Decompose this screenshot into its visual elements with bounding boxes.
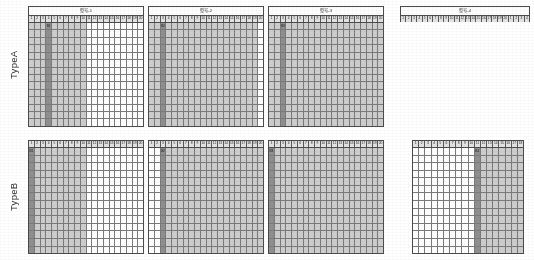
grid-row [149, 186, 263, 194]
grid-cell [138, 148, 143, 155]
grid-row [149, 201, 263, 209]
grid-row [29, 239, 143, 247]
grid-cell [518, 171, 523, 178]
matrix-panel-a4: 型号-412345678910111213141516171819201234 [400, 6, 530, 22]
grid-row [413, 224, 523, 232]
grid-cell [138, 224, 143, 231]
grid-row: B1 [29, 23, 143, 30]
panel-column-header-b4: 123456789101112131415161718 [412, 140, 524, 147]
grid-row: B2 [149, 23, 263, 30]
grid-row [149, 178, 263, 186]
grid-row [413, 216, 523, 224]
grid-row [149, 90, 263, 97]
column-header-cell: 20 [138, 16, 143, 22]
grid-cell [258, 53, 263, 59]
grid-row [149, 239, 263, 247]
grid-row [269, 178, 383, 186]
grid-row [269, 231, 383, 239]
grid-cell [258, 209, 263, 216]
grid-cell [138, 193, 143, 200]
grid-cell [378, 30, 383, 36]
grid-row [413, 231, 523, 239]
grid-row [413, 239, 523, 247]
grid-cell [518, 224, 523, 231]
grid-cell [518, 247, 523, 254]
matrix-panel-b2: 1234567891011121314151617181920B2 [148, 140, 264, 254]
grid-row [413, 201, 523, 209]
grid-row: B4 [413, 148, 523, 156]
grid-cell [138, 105, 143, 111]
highlight-column-label: B1 [29, 148, 34, 155]
grid-cell [138, 239, 143, 246]
grid-row [413, 193, 523, 201]
grid-cell [258, 119, 263, 125]
grid-row [149, 75, 263, 82]
grid-cell [258, 45, 263, 51]
grid-cell [378, 97, 383, 103]
grid-row [269, 171, 383, 179]
grid-cell [138, 209, 143, 216]
grid-row [29, 97, 143, 104]
grid-row [29, 231, 143, 239]
grid-row [269, 60, 383, 67]
grid-cell [258, 38, 263, 44]
grid-row [29, 112, 143, 119]
grid-cell [518, 193, 523, 200]
grid-row [149, 112, 263, 119]
grid-cell [138, 231, 143, 238]
grid-cell [378, 75, 383, 81]
grid-cell [378, 148, 383, 155]
grid-row [29, 90, 143, 97]
grid-row [29, 45, 143, 52]
grid-row [29, 163, 143, 171]
grid-row [269, 90, 383, 97]
grid-row [413, 178, 523, 186]
grid-cell [258, 82, 263, 88]
column-header-cell: 20 [378, 141, 383, 147]
matrix-panel-a2: 型号-21234567891011121314151617181920B2 [148, 6, 264, 126]
grid-row [269, 186, 383, 194]
grid-row [149, 53, 263, 60]
grid-row [149, 171, 263, 179]
grid-row [413, 209, 523, 217]
grid-row: B3 [269, 23, 383, 30]
grid-cell [138, 201, 143, 208]
grid-cell [258, 178, 263, 185]
grid-row [149, 224, 263, 232]
grid-cell [258, 224, 263, 231]
panel-column-header-a2: 1234567891011121314151617181920 [148, 15, 264, 22]
grid-cell [258, 247, 263, 254]
grid-cell [138, 216, 143, 223]
panel-title-a4: 型号-4 [400, 6, 530, 15]
grid-row [269, 112, 383, 119]
grid-cell [378, 247, 383, 254]
panel-grid-b2: B2 [148, 147, 264, 254]
panel-grid-a1: B1 [28, 22, 144, 127]
grid-cell [378, 163, 383, 170]
grid-row [29, 201, 143, 209]
grid-cell [378, 112, 383, 118]
grid-cell [378, 231, 383, 238]
grid-row [269, 239, 383, 247]
grid-row [149, 156, 263, 164]
grid-cell [258, 97, 263, 103]
grid-cell [258, 163, 263, 170]
panel-grid-a3: B3 [268, 22, 384, 127]
grid-row [413, 247, 523, 254]
grid-row [149, 209, 263, 217]
grid-cell [138, 112, 143, 118]
grid-cell [518, 231, 523, 238]
panel-column-header-a1: 1234567891011121314151617181920 [28, 15, 144, 22]
grid-cell [378, 186, 383, 193]
grid-cell [138, 53, 143, 59]
grid-cell [258, 231, 263, 238]
grid-row [29, 224, 143, 232]
grid-row [269, 97, 383, 104]
grid-row [29, 178, 143, 186]
grid-row [29, 216, 143, 224]
grid-row [149, 105, 263, 112]
grid-row: B1 [29, 148, 143, 156]
grid-cell [518, 216, 523, 223]
grid-cell [138, 68, 143, 74]
matrix-panel-a1: 型号-11234567891011121314151617181920B1 [28, 6, 144, 126]
